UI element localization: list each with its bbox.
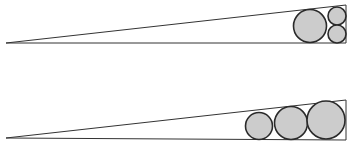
packed-circle [307,101,345,139]
diagram-canvas [0,0,353,153]
top-wedge [6,5,346,43]
wedge-circles-diagram [0,0,353,153]
packed-circle [246,113,273,140]
bottom-wedge [6,100,346,140]
packed-circle [328,25,346,43]
packed-circle [328,7,346,25]
packed-circle [275,107,308,140]
packed-circle [294,10,327,43]
